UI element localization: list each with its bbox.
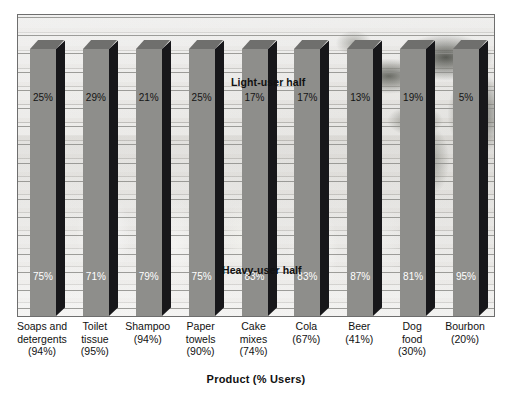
bar-value-label-light: 13% — [347, 92, 373, 103]
bar-group[interactable]: 21%79% — [136, 49, 162, 316]
category-label: Shampoo(94%) — [121, 320, 175, 345]
bar-side-face — [373, 41, 382, 316]
bar-value-label-heavy: 75% — [30, 271, 56, 282]
category-label-line-2: mixes — [227, 333, 281, 346]
bar-value-label-heavy: 75% — [189, 271, 215, 282]
category-label-line-1: Soaps and — [15, 320, 69, 333]
category-label-line-1: Toilet — [68, 320, 122, 333]
bar-value-label-heavy: 81% — [400, 271, 426, 282]
bar-value-label-heavy: 79% — [136, 271, 162, 282]
category-label: Toilettissue(95%) — [68, 320, 122, 358]
bar-value-label-light: 25% — [189, 92, 215, 103]
category-label: Bourbon(20%) — [438, 320, 492, 345]
category-label-line-2: tissue — [68, 333, 122, 346]
bar-value-label-light: 19% — [400, 92, 426, 103]
category-label-line-2: detergents — [15, 333, 69, 346]
bar-side-face — [320, 41, 329, 316]
category-label-line-1: Cake — [227, 320, 281, 333]
bar-side-face — [109, 41, 118, 316]
plot-area: 25%75%29%71%21%79%25%75%17%83%17%83%13%8… — [17, 14, 495, 317]
category-label-line-2: towels — [174, 333, 228, 346]
bar-value-label-light: 17% — [294, 92, 320, 103]
category-label: Cola(67%) — [279, 320, 333, 345]
bar-value-label-light: 5% — [453, 92, 479, 103]
category-label-line-3: (95%) — [68, 345, 122, 358]
category-label-line-2: food — [385, 333, 439, 346]
bar-side-face — [162, 41, 171, 316]
bar-value-label-heavy: 87% — [347, 271, 373, 282]
category-label: Beer(41%) — [332, 320, 386, 345]
category-label: Dogfood(30%) — [385, 320, 439, 358]
bar-value-label-heavy: 95% — [453, 271, 479, 282]
category-label-line-1: Dog — [385, 320, 439, 333]
category-label-line-2: (94%) — [121, 333, 175, 346]
annotation-light-user-half: Light-user half — [231, 76, 305, 88]
bar-value-label-light: 29% — [83, 92, 109, 103]
bar-group[interactable]: 13%87% — [347, 49, 373, 316]
category-label-line-3: (94%) — [15, 345, 69, 358]
category-label-line-1: Cola — [279, 320, 333, 333]
category-label-line-1: Paper — [174, 320, 228, 333]
bar-group[interactable]: 25%75% — [30, 49, 56, 316]
bar-side-face — [426, 41, 435, 316]
category-label-line-3: (74%) — [227, 345, 281, 358]
bar-group[interactable]: 29%71% — [83, 49, 109, 316]
chart-root: 25%75%29%71%21%79%25%75%17%83%17%83%13%8… — [0, 0, 512, 395]
category-label-line-1: Beer — [332, 320, 386, 333]
x-axis-title: Product (% Users) — [0, 373, 512, 385]
category-label-line-2: (67%) — [279, 333, 333, 346]
category-label-line-3: (90%) — [174, 345, 228, 358]
category-label: Papertowels(90%) — [174, 320, 228, 358]
category-label: Soaps anddetergents(94%) — [15, 320, 69, 358]
category-label-line-2: (20%) — [438, 333, 492, 346]
bar-side-face — [56, 41, 65, 316]
bar-group[interactable]: 25%75% — [189, 49, 215, 316]
bar-value-label-light: 21% — [136, 92, 162, 103]
category-label-line-1: Shampoo — [121, 320, 175, 333]
category-label-line-3: (30%) — [385, 345, 439, 358]
category-label-line-2: (41%) — [332, 333, 386, 346]
bar-side-face — [479, 41, 488, 316]
bar-value-label-light: 17% — [242, 92, 268, 103]
category-axis: Soaps anddetergents(94%)Toilettissue(95%… — [17, 320, 495, 372]
bar-group[interactable]: 5%95% — [453, 49, 479, 316]
bar-value-label-light: 25% — [30, 92, 56, 103]
bar-group[interactable]: 19%81% — [400, 49, 426, 316]
category-label: Cakemixes(74%) — [227, 320, 281, 358]
annotation-heavy-user-half: Heavy-user half — [222, 264, 302, 276]
category-label-line-1: Bourbon — [438, 320, 492, 333]
bar-value-label-heavy: 71% — [83, 271, 109, 282]
